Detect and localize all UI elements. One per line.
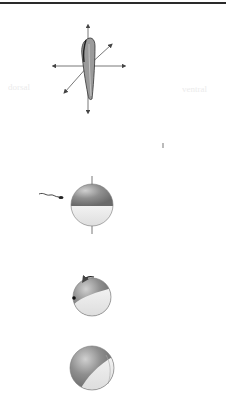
gray-crescent-panel: [70, 346, 114, 392]
fertilization-panel: [39, 176, 114, 234]
figure-canvas: [0, 0, 226, 414]
sperm-entry-point: [72, 296, 76, 300]
faint-mark: [162, 143, 164, 148]
rotation-panel: [72, 277, 112, 318]
body-axes-panel: [54, 26, 124, 112]
sperm-head: [59, 196, 64, 199]
sperm-tail: [39, 193, 59, 197]
